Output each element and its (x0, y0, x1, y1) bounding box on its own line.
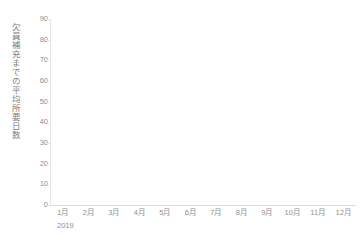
x-tick-label: 7月 (210, 208, 221, 218)
x-axis-group-label: 2019 (57, 221, 74, 231)
x-tick-label: 5月 (159, 208, 170, 218)
x-tick-label: 2月 (83, 208, 94, 218)
y-tick-label: 90 (26, 15, 48, 23)
y-axis-tick-labels: 90 80 70 60 50 40 30 20 10 0 (26, 15, 48, 206)
y-tick-label: 20 (26, 160, 48, 168)
x-tick-label: 6月 (185, 208, 196, 218)
x-tick-label: 3月 (108, 208, 119, 218)
x-tick-label: 11月 (310, 208, 325, 218)
y-tick-label: 40 (26, 118, 48, 126)
y-axis-title: 欠員補充までの平均所要日数 (3, 17, 19, 145)
plot-area (51, 19, 356, 205)
y-tick-label: 0 (26, 201, 48, 209)
x-tick-label: 1月 (57, 208, 68, 218)
y-tick-label: 30 (26, 139, 48, 147)
x-tick-label: 4月 (134, 208, 145, 218)
y-tick-label: 50 (26, 98, 48, 106)
chart-container: 欠員補充までの平均所要日数 90 80 70 60 50 40 30 20 10… (0, 0, 362, 244)
x-axis-tick-labels: 1月 2月 3月 4月 5月 6月 7月 8月 9月 10月 11月 12月 (50, 208, 356, 220)
x-tick-label: 10月 (285, 208, 300, 218)
x-tick-label: 8月 (236, 208, 247, 218)
x-axis-line (50, 205, 356, 206)
y-tick-label: 10 (26, 180, 48, 188)
x-tick-label: 9月 (261, 208, 272, 218)
y-tick-label: 80 (26, 36, 48, 44)
x-tick-label: 12月 (336, 208, 351, 218)
y-tick-label: 70 (26, 56, 48, 64)
y-tick-label: 60 (26, 77, 48, 85)
